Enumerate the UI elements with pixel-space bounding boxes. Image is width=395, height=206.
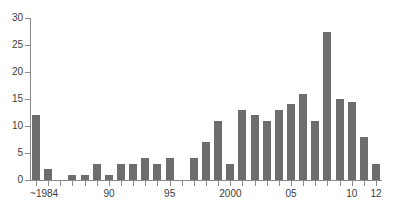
- x-tick-mark: [206, 181, 207, 186]
- x-tick-mark: [48, 181, 49, 186]
- x-tick-mark: [279, 181, 280, 186]
- x-tick-mark: [194, 181, 195, 186]
- x-tick-mark: [230, 181, 231, 186]
- bar: [81, 175, 89, 180]
- bar: [68, 175, 76, 180]
- bar-chart: 302520151050 ~198490952000051012: [0, 0, 395, 206]
- bar: [323, 32, 331, 181]
- x-tick-mark: [97, 181, 98, 186]
- bar: [117, 164, 125, 180]
- y-tick-label: 10: [0, 121, 23, 131]
- bar: [336, 99, 344, 180]
- bars-container: [30, 18, 382, 180]
- bar: [202, 142, 210, 180]
- y-tick-label-text: 30: [12, 13, 23, 23]
- x-tick-mark: [291, 181, 292, 186]
- bar: [238, 110, 246, 180]
- y-tick-label: 30: [0, 13, 23, 23]
- bar: [166, 158, 174, 180]
- x-tick-mark: [133, 181, 134, 186]
- bar: [141, 158, 149, 180]
- y-tick-label: 0: [0, 175, 23, 185]
- x-tick-label: 90: [103, 188, 114, 199]
- bar: [153, 164, 161, 180]
- x-tick-mark: [72, 181, 73, 186]
- y-tick-label-text: 20: [12, 67, 23, 77]
- y-tick-label-text: 15: [12, 94, 23, 104]
- x-tick-mark: [255, 181, 256, 186]
- x-tick-mark: [182, 181, 183, 186]
- bar: [214, 121, 222, 180]
- y-tick-label: 5: [0, 148, 23, 158]
- x-tick-mark: [267, 181, 268, 186]
- y-tick-label: 15: [0, 94, 23, 104]
- x-tick-label: 05: [285, 188, 296, 199]
- bar: [44, 169, 52, 180]
- x-tick-mark: [303, 181, 304, 186]
- bar: [105, 175, 113, 180]
- bar: [32, 115, 40, 180]
- x-tick-mark: [121, 181, 122, 186]
- x-tick-mark: [340, 181, 341, 186]
- x-tick-mark: [60, 181, 61, 186]
- x-tick-mark: [170, 181, 171, 186]
- bar: [129, 164, 137, 180]
- y-tick-label: 25: [0, 40, 23, 50]
- y-tick-mark: [25, 180, 30, 181]
- bar: [299, 94, 307, 180]
- x-tick-mark: [36, 181, 37, 186]
- x-tick-label: 2000: [219, 188, 241, 199]
- bar: [263, 121, 271, 180]
- y-tick-label: 20: [0, 67, 23, 77]
- x-tick-mark: [109, 181, 110, 186]
- bar: [275, 110, 283, 180]
- bar: [190, 158, 198, 180]
- x-tick-mark: [315, 181, 316, 186]
- x-tick-mark: [218, 181, 219, 186]
- x-tick-label: 10: [346, 188, 357, 199]
- bar: [251, 115, 259, 180]
- bar: [372, 164, 380, 180]
- x-tick-mark: [85, 181, 86, 186]
- x-tick-mark: [364, 181, 365, 186]
- x-tick-mark: [242, 181, 243, 186]
- bar: [360, 137, 368, 180]
- x-tick-label: ~1984: [30, 188, 58, 199]
- x-tick-mark: [145, 181, 146, 186]
- x-tick-mark: [157, 181, 158, 186]
- bar: [311, 121, 319, 180]
- y-tick-label-text: 10: [12, 121, 23, 131]
- x-tick-mark: [327, 181, 328, 186]
- bar: [348, 102, 356, 180]
- x-tick-label: 95: [164, 188, 175, 199]
- y-tick-label-text: 25: [12, 40, 23, 50]
- x-tick-label: 12: [370, 188, 381, 199]
- bar: [93, 164, 101, 180]
- x-tick-mark: [376, 181, 377, 186]
- y-tick-label-text: 0: [17, 175, 23, 185]
- x-tick-mark: [352, 181, 353, 186]
- bar: [287, 104, 295, 180]
- y-tick-label-text: 5: [17, 148, 23, 158]
- bar: [226, 164, 234, 180]
